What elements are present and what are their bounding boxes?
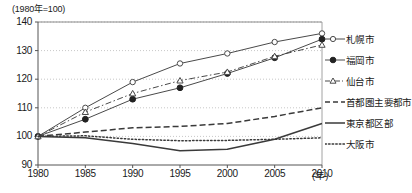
data-point-marker bbox=[272, 39, 277, 44]
data-point-marker bbox=[319, 31, 324, 36]
legend-item-sapporo: 札幌市 bbox=[325, 28, 405, 49]
legend-marker-open-triangle bbox=[325, 75, 345, 87]
legend-marker-open-circle bbox=[325, 33, 345, 45]
legend-marker-dotted-line bbox=[325, 138, 345, 150]
x-axis-tick-label: 2005 bbox=[255, 168, 295, 179]
x-axis-tick-label: 1995 bbox=[160, 168, 200, 179]
legend-label: 仙台市 bbox=[346, 74, 374, 88]
legend-label: 首都圏主要都市 bbox=[346, 95, 412, 109]
legend-marker-solid-line bbox=[325, 117, 345, 129]
series-line bbox=[38, 108, 322, 137]
data-point-marker bbox=[225, 51, 230, 56]
legend-item-osaka: 大阪市 bbox=[325, 133, 405, 154]
y-axis-tick-label: 140 bbox=[6, 16, 32, 27]
x-axis-tick-label: 1980 bbox=[18, 168, 58, 179]
data-point-marker bbox=[177, 85, 183, 91]
legend-label: 札幌市 bbox=[346, 32, 374, 46]
chart-legend: 札幌市 福岡市 仙台市 首都圏主要都市 東京都区部 bbox=[325, 28, 405, 154]
legend-item-tokyo-wards: 東京都区部 bbox=[325, 112, 405, 133]
series-line bbox=[38, 124, 322, 151]
data-point-marker bbox=[82, 116, 88, 122]
legend-item-shutoken: 首都圏主要都市 bbox=[325, 91, 405, 112]
legend-label: 大阪市 bbox=[346, 137, 374, 151]
legend-item-sendai: 仙台市 bbox=[325, 70, 405, 91]
legend-marker-filled-circle bbox=[325, 54, 345, 66]
y-axis-tick-label: 110 bbox=[6, 102, 32, 113]
legend-label: 東京都区部 bbox=[346, 116, 393, 130]
legend-marker-dashed-line bbox=[325, 96, 345, 108]
data-point-marker bbox=[177, 61, 182, 66]
legend-label: 福岡市 bbox=[346, 53, 374, 67]
data-point-marker bbox=[130, 96, 136, 102]
x-axis-tick-label: 1990 bbox=[113, 168, 153, 179]
data-point-marker bbox=[130, 79, 135, 84]
x-axis-tick-label: 2010 bbox=[302, 168, 342, 179]
x-axis-tick-label: 1985 bbox=[65, 168, 105, 179]
x-axis-tick-label: 2000 bbox=[207, 168, 247, 179]
y-axis-tick-label: 120 bbox=[6, 73, 32, 84]
y-axis-tick-label: 100 bbox=[6, 130, 32, 141]
y-axis-tick-label: 130 bbox=[6, 45, 32, 56]
data-point-marker bbox=[130, 90, 136, 96]
legend-item-fukuoka: 福岡市 bbox=[325, 49, 405, 70]
